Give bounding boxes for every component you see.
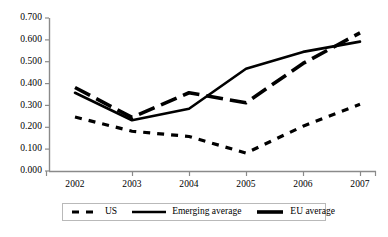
dotted-line-swatch-icon (70, 207, 100, 217)
dashed-line-swatch-icon (255, 207, 285, 217)
y-axis-ticks (45, 18, 49, 171)
legend-item-us: US (70, 207, 117, 217)
legend-label-us: US (105, 207, 117, 217)
legend-label-eu-average: EU average (290, 207, 335, 217)
line-chart: 0.700 0.600 0.500 0.400 0.300 0.200 0.10… (0, 0, 388, 237)
plot-area (0, 0, 388, 237)
solid-line-swatch-icon (131, 207, 167, 217)
series-line-eu-average (75, 33, 360, 118)
legend-label-emerging-average: Emerging average (172, 207, 241, 217)
legend-item-emerging-average: Emerging average (131, 207, 241, 217)
legend-item-eu-average: EU average (255, 207, 335, 217)
series-line-emerging-average (75, 42, 360, 121)
chart-legend: US Emerging average EU average (62, 203, 326, 221)
